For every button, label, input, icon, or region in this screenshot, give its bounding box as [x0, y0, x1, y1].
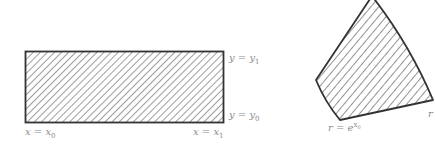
label-y-equals-y1: y = y1 — [229, 53, 260, 66]
hatched-annular-sector — [316, 0, 433, 120]
label-x-equals-x0: x = x0 — [25, 127, 55, 140]
label-y-equals-y0: y = y0 — [229, 110, 260, 123]
label-r-outer: r — [428, 109, 433, 119]
label-r-equals-e-x0: r = ex0 — [328, 122, 361, 133]
hatched-rectangle — [26, 52, 224, 123]
label-x-equals-x1: x = x1 — [193, 127, 223, 140]
